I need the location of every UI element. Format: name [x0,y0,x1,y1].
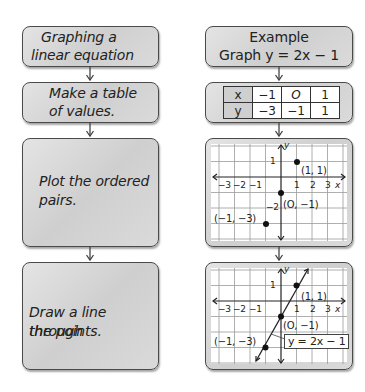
x-tick: −1 [249,304,262,314]
arrow-down-icon [274,246,284,262]
table-row-y: y −3 −1 1 [224,103,340,119]
y-tick-1: 1 [270,280,276,290]
step-make-table-line2: of values. [49,102,115,121]
x-tick: 2 [310,304,316,314]
step-draw-line2: the points. [29,322,102,341]
arrow-down-icon [85,66,95,82]
point-label-0-neg1: (O, −1) [283,320,318,331]
step-box-graphing-title: Graphing a linear equation [22,26,159,67]
step-title-line2: linear equation [31,46,134,65]
point-label-neg1-neg3: (−1, −3) [214,336,256,347]
table-row-x: x −1 O 1 [224,87,340,103]
table-box: x −1 O 1 y −3 −1 1 [205,82,353,123]
x-tick: 1 [294,304,300,314]
step-box-plot-pairs: Plot the ordered pairs. [22,138,159,247]
table-header-y: y [224,103,253,119]
step-box-make-table: Make a table of values. [22,82,159,123]
table-cell: O [282,87,311,103]
step-plot-line1: Plot the ordered [39,172,149,191]
x-tick: −2 [233,304,246,314]
coordinate-grid-line [211,268,347,364]
step-title-line1: Graphing a [41,28,117,47]
example-title: Example [206,28,352,47]
y-axis-label: y [284,140,289,150]
y-tick-1: 1 [270,156,276,166]
x-tick: −3 [218,304,231,314]
graph-points-box: y 1 −2 −3 −2 −1 1 2 3 x (1, 1) (O, −1) (… [205,138,353,247]
x-tick: −3 [218,180,231,190]
point-label-1-1: (1, 1) [301,165,327,176]
point-label-neg1-neg3: (−1, −3) [214,213,256,224]
arrow-down-icon [274,66,284,82]
arrow-down-icon [274,122,284,138]
table-cell: −1 [282,103,311,119]
x-tick: −1 [249,180,262,190]
table-cell: 1 [311,87,340,103]
point-0-neg1 [278,190,284,196]
point-neg1-neg3 [263,221,269,227]
x-tick: 3 [325,180,331,190]
table-cell: 1 [311,103,340,119]
arrow-down-icon [85,122,95,138]
step-plot-line2: pairs. [39,191,77,210]
example-equation: Graph y = 2x − 1 [206,46,352,65]
y-axis-label: y [284,264,289,274]
y-tick-neg2: −2 [266,202,279,212]
table-header-x: x [224,87,253,103]
point-1-1 [294,159,300,165]
x-axis-label: x [335,180,340,190]
x-tick: 1 [294,180,300,190]
values-table: x −1 O 1 y −3 −1 1 [223,86,340,119]
example-box: Example Graph y = 2x − 1 [205,26,353,67]
arrow-down-icon [85,246,95,262]
x-tick: −2 [233,180,246,190]
x-tick: 3 [325,304,331,314]
point-label-1-1: (1, 1) [301,291,327,302]
table-cell: −3 [253,103,282,119]
step-box-draw-line: Draw a line through the points. [22,262,159,370]
x-axis-label: x [335,304,340,314]
x-tick: 2 [310,180,316,190]
step-make-table-line1: Make a table [49,84,137,103]
graph-line-box: y 1 −3 −2 −1 1 2 3 x (1, 1) (O, −1) (−1,… [205,262,353,370]
point-label-0-neg1: (O, −1) [283,199,318,210]
table-cell: −1 [253,87,282,103]
line-equation-callout: y = 2x − 1 [284,334,349,349]
